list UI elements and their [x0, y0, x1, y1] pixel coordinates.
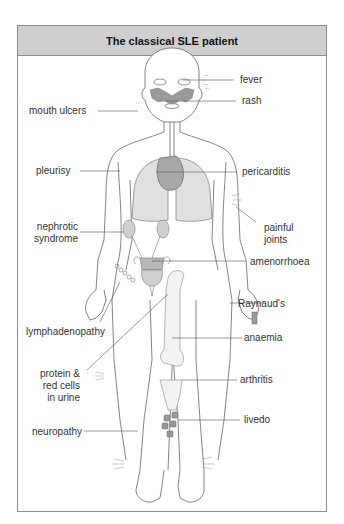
label-fever: fever	[240, 74, 262, 86]
label-neuropathy: neuropathy	[32, 426, 82, 438]
label-pericarditis: pericarditis	[242, 166, 290, 178]
left-foot	[136, 470, 164, 502]
left-kidney	[123, 220, 135, 238]
right-foot	[178, 470, 204, 502]
label-painful-joints: painful joints	[264, 222, 293, 246]
livedo-spots	[162, 412, 178, 437]
label-pleurisy: pleurisy	[36, 165, 70, 177]
tibia	[160, 380, 182, 410]
label-raynauds: Raynaud's	[238, 298, 285, 310]
label-anaemia: anaemia	[244, 332, 282, 344]
bladder	[142, 270, 163, 286]
label-livedo: livedo	[244, 414, 270, 426]
uterus	[140, 258, 164, 270]
lymph-nodes	[115, 264, 135, 282]
label-lymphadenopathy: lymphadenopathy	[26, 326, 105, 338]
fever-dashes	[202, 75, 209, 89]
label-amenorrhoea: amenorrhoea	[250, 256, 309, 268]
label-mouth-ulcers: mouth ulcers	[29, 105, 86, 117]
head-outline	[142, 48, 202, 122]
right-kidney	[157, 220, 169, 238]
label-nephrotic-syndrome: nephrotic syndrome	[30, 221, 78, 245]
label-protein-red-cells: protein & red cells in urine	[30, 368, 80, 404]
label-rash: rash	[242, 95, 261, 107]
femur	[161, 271, 184, 367]
label-arthritis: arthritis	[240, 374, 273, 386]
heart	[157, 156, 183, 190]
raynauds-finger	[252, 312, 257, 324]
